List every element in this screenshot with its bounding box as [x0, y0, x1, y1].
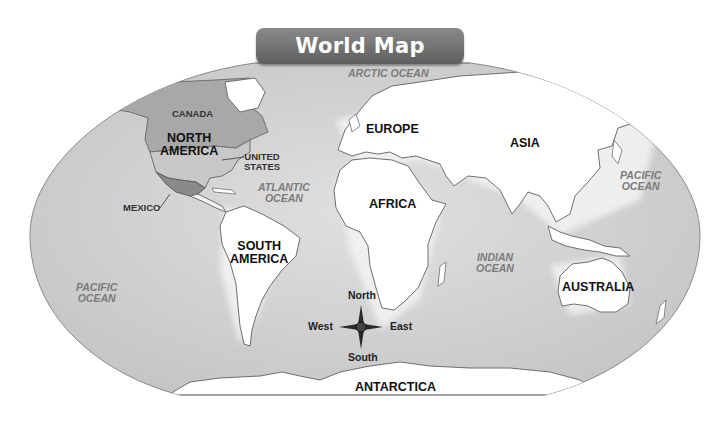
map-title: World Map	[295, 34, 425, 58]
label-pacific-ocean-west: PACIFIC OCEAN	[76, 282, 117, 304]
label-canada: CANADA	[172, 109, 213, 119]
label-south-america: SOUTH AMERICA	[230, 240, 288, 266]
label-europe: EUROPE	[366, 123, 419, 136]
label-mexico: MEXICO	[123, 203, 160, 213]
compass-north-label: North	[348, 290, 376, 301]
map-title-banner: World Map	[256, 28, 464, 64]
compass-south-label: South	[348, 352, 378, 363]
label-north-america: NORTH AMERICA	[160, 132, 218, 158]
label-indian-ocean: INDIAN OCEAN	[476, 252, 514, 274]
label-atlantic-ocean: ATLANTIC OCEAN	[258, 182, 310, 204]
label-arctic-ocean: ARCTIC OCEAN	[348, 68, 429, 79]
label-asia: ASIA	[510, 137, 540, 150]
label-antarctica: ANTARCTICA	[355, 381, 436, 394]
compass-west-label: West	[308, 321, 333, 332]
label-pacific-ocean-east: PACIFIC OCEAN	[620, 170, 661, 192]
label-united-states: UNITED STATES	[244, 152, 280, 172]
label-africa: AFRICA	[369, 198, 416, 211]
label-australia: AUSTRALIA	[562, 281, 634, 294]
compass-east-label: East	[390, 321, 412, 332]
